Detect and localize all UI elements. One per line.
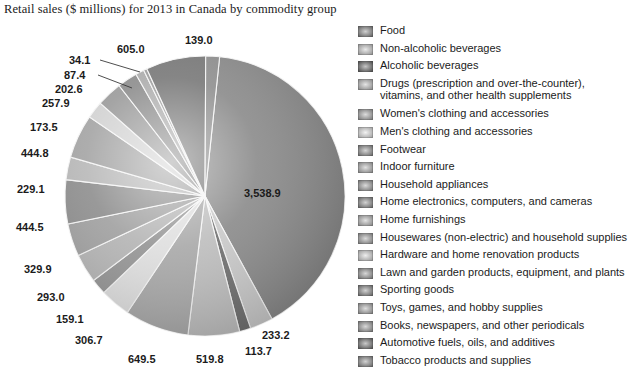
pie-chart-svg <box>0 20 356 384</box>
legend-swatch-icon <box>358 197 373 208</box>
chart-title: Retail sales ($ millions) for 2013 in Ca… <box>4 2 337 17</box>
legend-item[interactable]: Drugs (prescription and over-the-counter… <box>358 77 629 104</box>
legend-swatch-icon <box>358 145 373 156</box>
legend-swatch-icon <box>358 285 373 296</box>
legend-item[interactable]: Alcoholic beverages <box>358 59 629 73</box>
legend-item-label: Automotive fuels, oils, and additives <box>380 336 555 349</box>
pie-value-label: 519.8 <box>196 353 224 365</box>
legend-item[interactable]: Non-alcoholic beverages <box>358 42 629 56</box>
legend-item-label: Sporting goods <box>380 283 454 296</box>
pie-value-label: 605.0 <box>117 43 145 55</box>
legend-swatch-icon <box>358 268 373 279</box>
pie-value-label: 444.5 <box>16 221 44 233</box>
legend-swatch-icon <box>358 61 373 72</box>
pie-value-label: 139.0 <box>185 34 213 46</box>
pie-value-label: 293.0 <box>37 291 65 303</box>
pie-value-label: 229.1 <box>17 183 45 195</box>
legend-item[interactable]: Automotive fuels, oils, and additives <box>358 336 629 350</box>
legend-item-label: Drugs (prescription and over-the-counter… <box>380 77 629 102</box>
legend-item-label: Toys, games, and hobby supplies <box>380 301 543 314</box>
legend-item-label: Household appliances <box>380 178 488 191</box>
legend-swatch-icon <box>358 180 373 191</box>
legend-item-label: Footwear <box>380 143 426 156</box>
legend-swatch-icon <box>358 250 373 261</box>
legend-item-label: Lawn and garden products, equipment, and… <box>380 266 625 279</box>
legend-swatch-icon <box>358 321 373 332</box>
legend-item[interactable]: Housewares (non-electric) and household … <box>358 231 629 245</box>
pie-value-label: 159.1 <box>56 313 84 325</box>
legend-swatch-icon <box>358 109 373 120</box>
legend-swatch-icon <box>358 79 373 90</box>
legend-item[interactable]: Men's clothing and accessories <box>358 125 629 139</box>
pie-slices <box>65 56 345 336</box>
legend-item-label: Indoor furniture <box>380 160 455 173</box>
legend-item-label: Home electronics, computers, and cameras <box>380 195 592 208</box>
legend-item[interactable]: Toys, games, and hobby supplies <box>358 301 629 315</box>
legend-swatch-icon <box>358 44 373 55</box>
legend: FoodNon-alcoholic beveragesAlcoholic bev… <box>358 24 629 371</box>
legend-swatch-icon <box>358 338 373 349</box>
legend-item[interactable]: Footwear <box>358 143 629 157</box>
legend-item[interactable]: Household appliances <box>358 178 629 192</box>
legend-item-label: Housewares (non-electric) and household … <box>380 231 627 244</box>
pie-value-label: 329.9 <box>24 263 52 275</box>
legend-item[interactable]: Sporting goods <box>358 283 629 297</box>
legend-swatch-icon <box>358 356 373 367</box>
legend-swatch-icon <box>358 233 373 244</box>
legend-item-label: Books, newspapers, and other periodicals <box>380 319 584 332</box>
legend-item-label: Food <box>380 24 405 37</box>
legend-swatch-icon <box>358 162 373 173</box>
legend-item[interactable]: Home furnishings <box>358 213 629 227</box>
legend-item[interactable]: Lawn and garden products, equipment, and… <box>358 266 629 280</box>
pie-value-label: 233.2 <box>262 329 290 341</box>
legend-item[interactable]: Women's clothing and accessories <box>358 107 629 121</box>
pie-value-label: 306.7 <box>75 334 103 346</box>
legend-item[interactable]: Books, newspapers, and other periodicals <box>358 319 629 333</box>
legend-swatch-icon <box>358 127 373 138</box>
pie-value-label: 202.6 <box>55 83 83 95</box>
legend-item-label: Hardware and home renovation products <box>380 248 579 261</box>
legend-swatch-icon <box>358 303 373 314</box>
pie-value-label: 444.8 <box>21 147 49 159</box>
legend-item[interactable]: Home electronics, computers, and cameras <box>358 195 629 209</box>
legend-item-label: Alcoholic beverages <box>380 59 478 72</box>
pie-value-label: 87.4 <box>64 69 85 81</box>
legend-swatch-icon <box>358 215 373 226</box>
legend-item[interactable]: Indoor furniture <box>358 160 629 174</box>
legend-item[interactable]: Hardware and home renovation products <box>358 248 629 262</box>
pie-value-label: 3,538.9 <box>244 187 281 199</box>
pie-value-label: 173.5 <box>30 121 58 133</box>
legend-item-label: Tobacco products and supplies <box>380 354 531 367</box>
pie-value-label: 649.5 <box>128 353 156 365</box>
legend-item-label: Home furnishings <box>380 213 466 226</box>
pie-value-label: 113.7 <box>245 345 272 357</box>
legend-swatch-icon <box>358 26 373 37</box>
legend-item-label: Women's clothing and accessories <box>380 107 549 120</box>
legend-item[interactable]: Food <box>358 24 629 38</box>
pie-chart: 139.0605.034.187.4202.6257.9173.5444.822… <box>0 20 356 384</box>
legend-item[interactable]: Tobacco products and supplies <box>358 354 629 368</box>
legend-item-label: Men's clothing and accessories <box>380 125 533 138</box>
legend-item-label: Non-alcoholic beverages <box>380 42 501 55</box>
pie-value-label: 34.1 <box>69 54 90 66</box>
pie-value-label: 257.9 <box>42 97 70 109</box>
